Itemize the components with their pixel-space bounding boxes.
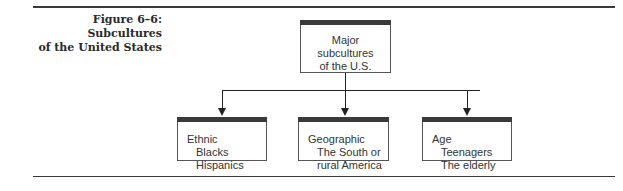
box-header-bar (422, 117, 512, 122)
child-node-label: Ethnic Blacks Hispanics (187, 133, 244, 172)
root-label-line: subcultures (301, 47, 390, 60)
child-node-label: Geographic The South or rural America (308, 133, 382, 172)
connector-horizontal (222, 90, 480, 91)
child-item: Hispanics (187, 159, 244, 172)
arrow-down-icon (463, 108, 471, 116)
figure-caption: Figure 6–6: Subcultures of the United St… (32, 13, 162, 55)
child-node-label: Age Teenagers The elderly (432, 133, 495, 172)
arrow-down-icon (341, 108, 349, 116)
child-item: The South or (308, 146, 382, 159)
box-header-bar (177, 117, 267, 122)
child-heading: Geographic (308, 133, 365, 145)
top-rule (33, 6, 615, 8)
caption-line-2: of the United States (32, 41, 162, 55)
bottom-rule (33, 176, 615, 177)
connector-center (345, 90, 346, 110)
child-node-geographic: Geographic The South or rural America (298, 117, 389, 161)
arrow-down-icon (218, 108, 226, 116)
child-heading: Ethnic (187, 133, 218, 145)
box-header-bar (300, 20, 391, 25)
root-node-label: Major subcultures of the U.S. (301, 34, 390, 73)
root-label-line: Major (301, 34, 390, 47)
child-heading: Age (432, 133, 452, 145)
box-header-bar (298, 117, 389, 122)
child-item: Teenagers (432, 146, 495, 159)
root-node-box: Major subcultures of the U.S. (300, 20, 391, 73)
child-node-age: Age Teenagers The elderly (422, 117, 512, 161)
child-item: The elderly (432, 159, 495, 172)
child-item: Blacks (187, 146, 244, 159)
child-item: rural America (308, 159, 382, 172)
connector-root-down (345, 73, 346, 90)
connector-left (222, 90, 223, 110)
child-node-ethnic: Ethnic Blacks Hispanics (177, 117, 267, 161)
connector-right (467, 90, 468, 110)
root-label-line: of the U.S. (301, 60, 390, 73)
caption-line-1: Figure 6–6: Subcultures (32, 13, 162, 41)
